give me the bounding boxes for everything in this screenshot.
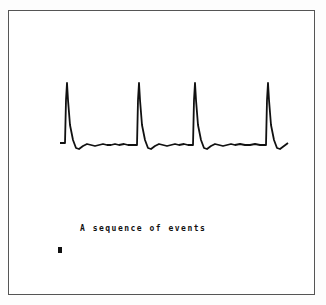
block-cursor [58, 247, 62, 253]
signal-line [60, 83, 288, 149]
waveform-chart [0, 0, 326, 305]
caption-text: A sequence of events [80, 224, 206, 233]
